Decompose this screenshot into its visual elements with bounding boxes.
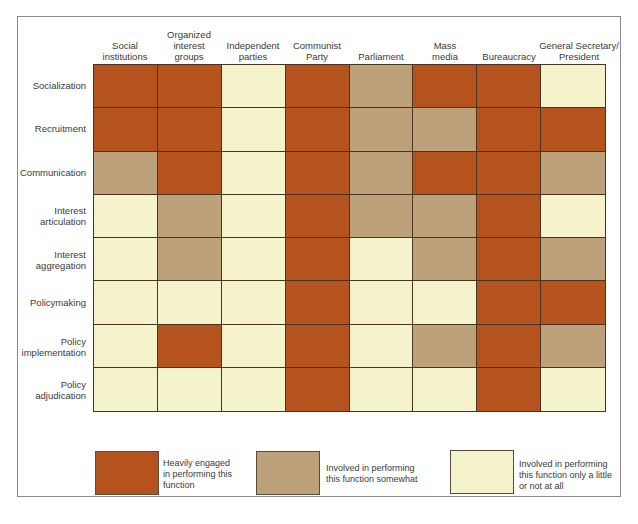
legend-text-somewhat: Involved in performing this function som… [326, 463, 418, 485]
row-label-policymaking: Policymaking [20, 281, 86, 324]
matrix-cell [541, 108, 605, 151]
matrix-cell [158, 65, 222, 108]
matrix-cell [158, 108, 222, 151]
matrix-cell [541, 368, 605, 411]
matrix-cell [222, 108, 286, 151]
column-header-label: Parliament [358, 51, 403, 62]
column-header-label: Bureaucracy [482, 51, 535, 62]
row-label-interest-aggregation: Interest aggregation [20, 238, 86, 281]
row-label-text: Policy adjudication [35, 379, 86, 401]
matrix-cell [158, 152, 222, 195]
row-label-text: Interest articulation [40, 205, 86, 227]
row-label-socialization: Socialization [20, 64, 86, 107]
matrix-cell [477, 65, 541, 108]
column-header-label: Communist Party [293, 40, 341, 62]
matrix-cell [541, 238, 605, 281]
column-header-organized-interest-groups: Organized interest groups [157, 18, 221, 62]
matrix-cell [541, 325, 605, 368]
matrix-cell [222, 325, 286, 368]
row-label-policy-implementation: Policy implementation [20, 325, 86, 368]
matrix-cell [541, 195, 605, 238]
row-label-policy-adjudication: Policy adjudication [20, 368, 86, 411]
column-header-label: Organized interest groups [167, 29, 211, 62]
column-header-label: Social institutions [103, 40, 148, 62]
legend-text-heavily-engaged: Heavily engaged in performing this funct… [163, 458, 232, 491]
matrix-cell [94, 325, 158, 368]
matrix-cell [477, 108, 541, 151]
matrix-cell [222, 65, 286, 108]
matrix-cell [350, 238, 414, 281]
column-header-label: Mass media [432, 40, 458, 62]
matrix-cell [94, 108, 158, 151]
matrix-cell [413, 65, 477, 108]
matrix-cell [158, 368, 222, 411]
column-header-social-institutions: Social institutions [93, 18, 157, 62]
matrix-cell [350, 152, 414, 195]
matrix-cell [541, 281, 605, 324]
row-label-text: Policy implementation [22, 336, 86, 358]
matrix-cell [413, 152, 477, 195]
matrix-cell [94, 281, 158, 324]
row-label-text: Communication [20, 167, 86, 178]
matrix-cell [286, 281, 350, 324]
matrix-cell [286, 195, 350, 238]
matrix-cell [222, 152, 286, 195]
column-header-label: General Secretary/ President [539, 40, 619, 62]
matrix-cell [158, 281, 222, 324]
row-label-recruitment: Recruitment [20, 107, 86, 150]
matrix-cell [350, 281, 414, 324]
matrix-cell [286, 325, 350, 368]
matrix-cell [477, 325, 541, 368]
row-label-interest-articulation: Interest articulation [20, 194, 86, 237]
matrix-cell [477, 281, 541, 324]
matrix-cell [94, 195, 158, 238]
matrix-cell [413, 108, 477, 151]
matrix-cell [222, 238, 286, 281]
column-header-label: Independent parties [227, 40, 280, 62]
legend-text-little-or-none: Involved in performing this function onl… [519, 459, 612, 492]
matrix-cell [477, 238, 541, 281]
matrix-cell [286, 152, 350, 195]
column-header-communist-party: Communist Party [285, 18, 349, 62]
matrix-cell [158, 195, 222, 238]
matrix-cell [158, 325, 222, 368]
column-header-parliament: Parliament [349, 18, 413, 62]
matrix-cell [413, 281, 477, 324]
matrix-cell [222, 195, 286, 238]
matrix-cell [286, 238, 350, 281]
row-label-text: Interest aggregation [36, 249, 86, 271]
matrix-cell [477, 152, 541, 195]
row-label-text: Recruitment [35, 123, 86, 134]
matrix-cell [286, 65, 350, 108]
matrix-cell [413, 325, 477, 368]
matrix-cell [350, 65, 414, 108]
matrix-cell [94, 152, 158, 195]
matrix-cell [94, 65, 158, 108]
legend-swatch-heavily-engaged [95, 451, 159, 495]
matrix-cell [94, 368, 158, 411]
row-label-communication: Communication [20, 151, 86, 194]
matrix-cell [413, 238, 477, 281]
row-label-text: Socialization [33, 80, 86, 91]
function-matrix-grid [93, 64, 606, 412]
matrix-cell [286, 368, 350, 411]
matrix-cell [477, 368, 541, 411]
matrix-cell [350, 195, 414, 238]
row-label-text: Policymaking [30, 297, 86, 308]
matrix-cell [222, 368, 286, 411]
matrix-cell [350, 368, 414, 411]
legend-swatch-somewhat [256, 451, 320, 495]
matrix-cell [477, 195, 541, 238]
column-header-independent-parties: Independent parties [221, 18, 285, 62]
matrix-cell [94, 238, 158, 281]
matrix-cell [350, 325, 414, 368]
matrix-cell [222, 281, 286, 324]
matrix-cell [286, 108, 350, 151]
matrix-cell [350, 108, 414, 151]
column-header-general-secretary-president: General Secretary/ President [531, 18, 627, 62]
matrix-cell [541, 65, 605, 108]
matrix-cell [413, 195, 477, 238]
legend-swatch-little-or-none [450, 450, 514, 494]
matrix-cell [158, 238, 222, 281]
column-header-mass-media: Mass media [413, 18, 477, 62]
